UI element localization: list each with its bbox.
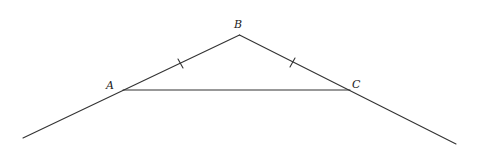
label-b: B [233, 18, 242, 31]
line-ab-extended [23, 35, 240, 138]
triangle-diagram: B A C [0, 0, 479, 157]
label-c: C [352, 78, 361, 91]
label-a: A [105, 79, 114, 92]
